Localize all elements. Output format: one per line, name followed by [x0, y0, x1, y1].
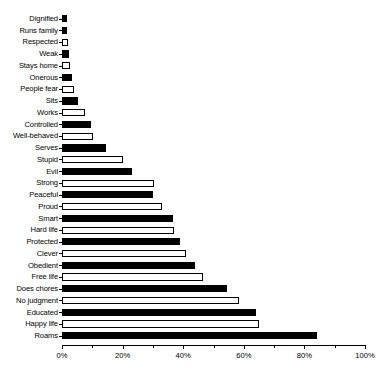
- bar-category-label: Controlled: [0, 119, 58, 131]
- x-axis-major-tick: [365, 345, 366, 349]
- x-axis-tick-label: 80%: [284, 351, 324, 361]
- bar-category-label: Hard life: [0, 224, 58, 236]
- bar-happy-life: [62, 320, 259, 327]
- bar-category-label: Smart: [0, 213, 58, 225]
- bar-runs-family: [62, 27, 67, 34]
- bar-row: Does chores: [0, 283, 377, 295]
- bar-row: Dignified: [0, 13, 377, 25]
- bar-row: Strong: [0, 177, 377, 189]
- bar-row: Well-behaved: [0, 130, 377, 142]
- bar-category-label: Strong: [0, 177, 58, 189]
- x-axis-minor-tick: [153, 345, 154, 348]
- bar-smart: [62, 215, 173, 222]
- bar-stupid: [62, 156, 123, 163]
- bar-row: Protected: [0, 236, 377, 248]
- bar-category-label: Does chores: [0, 283, 58, 295]
- x-axis-major-tick: [183, 345, 184, 349]
- bar-controlled: [62, 121, 91, 128]
- bar-serves: [62, 144, 106, 151]
- bar-category-label: Serves: [0, 142, 58, 154]
- bar-category-label: Happy life: [0, 318, 58, 330]
- bar-category-label: Weak: [0, 48, 58, 60]
- bar-onerous: [62, 74, 72, 81]
- bar-row: Onerous: [0, 72, 377, 84]
- bar-category-label: Stupid: [0, 154, 58, 166]
- x-axis-minor-tick: [335, 345, 336, 348]
- bar-category-label: Onerous: [0, 72, 58, 84]
- bar-dignified: [62, 15, 67, 22]
- bar-row: People fear: [0, 83, 377, 95]
- x-axis-tick-label: 100%: [345, 351, 377, 361]
- x-axis-major-tick: [244, 345, 245, 349]
- bar-proud: [62, 203, 162, 210]
- bar-category-label: Protected: [0, 236, 58, 248]
- bar-row: Works: [0, 107, 377, 119]
- x-axis-minor-tick: [92, 345, 93, 348]
- bar-row: Weak: [0, 48, 377, 60]
- bar-row: No judgment: [0, 295, 377, 307]
- bar-category-label: No judgment: [0, 295, 58, 307]
- bar-category-label: Clever: [0, 248, 58, 260]
- bar-well-behaved: [62, 133, 93, 140]
- bar-category-label: Stays home: [0, 60, 58, 72]
- bar-protected: [62, 238, 180, 245]
- bar-weak: [62, 50, 69, 57]
- bar-row: Respected: [0, 36, 377, 48]
- bar-row: Hard life: [0, 224, 377, 236]
- bar-row: Stays home: [0, 60, 377, 72]
- bar-category-label: Free life: [0, 271, 58, 283]
- bar-clever: [62, 250, 186, 257]
- bar-row: Serves: [0, 142, 377, 154]
- bar-row: Proud: [0, 201, 377, 213]
- bar-category-label: Works: [0, 107, 58, 119]
- bar-peaceful: [62, 191, 153, 198]
- bar-chart: DignifiedRuns familyRespectedWeakStays h…: [0, 0, 377, 371]
- bar-row: Stupid: [0, 154, 377, 166]
- x-axis-minor-tick: [214, 345, 215, 348]
- bar-category-label: Sits: [0, 95, 58, 107]
- bar-category-label: Educated: [0, 307, 58, 319]
- bar-row: Peaceful: [0, 189, 377, 201]
- bar-row: Controlled: [0, 119, 377, 131]
- x-axis-minor-tick: [274, 345, 275, 348]
- bar-free-life: [62, 273, 203, 280]
- bar-category-label: Respected: [0, 36, 58, 48]
- x-axis-tick-label: 40%: [163, 351, 203, 361]
- bar-category-label: Peaceful: [0, 189, 58, 201]
- bar-obedient: [62, 262, 195, 269]
- bar-no-judgment: [62, 297, 239, 304]
- x-axis-major-tick: [123, 345, 124, 349]
- bar-roams: [62, 332, 317, 339]
- x-axis-tick-label: 0%: [42, 351, 82, 361]
- bar-row: Free life: [0, 271, 377, 283]
- bar-educated: [62, 309, 256, 316]
- bar-sits: [62, 97, 78, 104]
- bar-row: Obedient: [0, 260, 377, 272]
- bar-category-label: Obedient: [0, 260, 58, 272]
- bar-hard-life: [62, 227, 174, 234]
- bar-row: Evil: [0, 166, 377, 178]
- bar-people-fear: [62, 86, 74, 93]
- bar-category-label: Well-behaved: [0, 130, 58, 142]
- plot-area: DignifiedRuns familyRespectedWeakStays h…: [0, 0, 377, 371]
- bar-stays-home: [62, 62, 70, 69]
- bar-does-chores: [62, 285, 227, 292]
- bar-category-label: People fear: [0, 83, 58, 95]
- bar-evil: [62, 168, 132, 175]
- bar-category-label: Dignified: [0, 13, 58, 25]
- bar-category-label: Proud: [0, 201, 58, 213]
- bar-works: [62, 109, 85, 116]
- bar-row: Smart: [0, 213, 377, 225]
- bar-row: Sits: [0, 95, 377, 107]
- bar-strong: [62, 180, 154, 187]
- x-axis-tick-label: 20%: [103, 351, 143, 361]
- x-axis-major-tick: [62, 345, 63, 349]
- bar-category-label: Runs family: [0, 25, 58, 37]
- bar-category-label: Evil: [0, 166, 58, 178]
- bar-row: Runs family: [0, 25, 377, 37]
- bar-row: Happy life: [0, 318, 377, 330]
- bar-row: Educated: [0, 307, 377, 319]
- bar-row: Roams: [0, 330, 377, 342]
- x-axis-major-tick: [304, 345, 305, 349]
- bar-category-label: Roams: [0, 330, 58, 342]
